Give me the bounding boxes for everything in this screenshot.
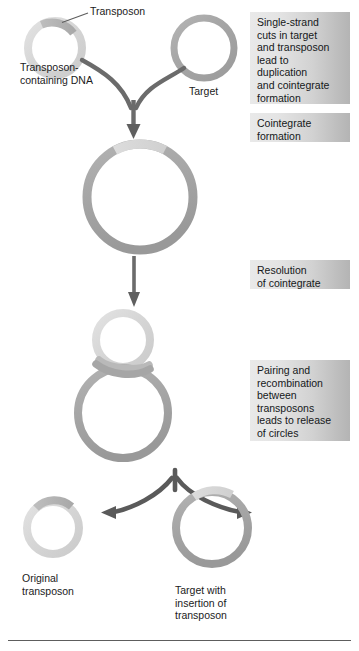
cointegrate-transposon-segment	[115, 144, 165, 151]
original-transposon-circle	[27, 500, 79, 554]
paired-transposon-figure8	[78, 313, 168, 458]
converging-arrow-to-cointegrate	[82, 60, 184, 139]
label-original-transposon: Original transposon	[22, 572, 74, 597]
transposon-segment	[42, 23, 74, 34]
cointegrate-circle	[87, 144, 193, 250]
note-resolution-of-cointegrate: Resolution of cointegrate	[250, 260, 350, 289]
bottom-divider	[8, 640, 351, 641]
note-cointegrate-formation: Cointegrate formation	[250, 113, 350, 142]
arrow-cointegrate-to-pairing	[128, 256, 140, 307]
original-transposon-segment	[36, 500, 72, 508]
label-target: Target	[189, 85, 218, 98]
note-single-strand-cuts: Single-strand cuts in target and transpo…	[250, 12, 350, 104]
paired-transposon-small-circle	[96, 313, 150, 367]
note-pairing-and-recombination: Pairing and recombination between transp…	[250, 360, 350, 441]
diagram-canvas: Transposon Transposon- containing DNA Ta…	[0, 0, 359, 651]
label-transposon-containing-dna: Transposon- containing DNA	[20, 61, 93, 86]
transposon-leader-line	[62, 13, 88, 23]
label-target-with-insertion: Target with insertion of transposon	[175, 584, 227, 622]
label-transposon: Transposon	[90, 5, 145, 18]
paired-transposon-large-circle	[78, 368, 168, 458]
